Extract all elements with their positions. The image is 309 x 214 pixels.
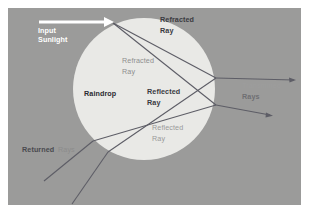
label-returned-rays-word1: Returned — [22, 145, 54, 154]
label-input-sunlight-line2: Sunlight — [38, 35, 68, 44]
label-refracted-ray-inner-line2: Ray — [122, 67, 135, 76]
label-input-sunlight-line1: Input — [38, 26, 57, 35]
label-refracted-ray-top-line1: Refracted — [160, 15, 194, 24]
label-transmitted-rays-line2: Rays — [242, 92, 260, 101]
label-raindrop: Raindrop — [84, 89, 117, 98]
label-reflected-ray-lower-line2: Ray — [152, 134, 165, 143]
label-reflected-ray-lower-line1: Reflected — [152, 123, 183, 132]
label-reflected-ray-center-line2: Ray — [147, 98, 161, 107]
raindrop-light-diagram: Input Sunlight Refracted Ray Refracted R… — [0, 0, 309, 214]
label-returned-rays-word2: Rays — [58, 145, 75, 154]
label-reflected-ray-center-line1: Reflected — [147, 87, 180, 96]
label-refracted-ray-inner-line1: Refracted — [122, 56, 154, 65]
label-refracted-ray-top-line2: Ray — [160, 26, 174, 35]
label-transmitted-rays-line1: Transmitted — [242, 81, 281, 90]
diagram-canvas: Input Sunlight Refracted Ray Refracted R… — [0, 0, 309, 214]
